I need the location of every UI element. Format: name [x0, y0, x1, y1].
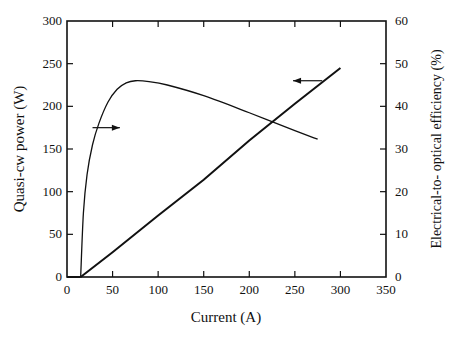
- x-tick-label: 50: [106, 282, 119, 297]
- y2-tick-label: 50: [395, 56, 408, 71]
- power-line: [81, 68, 341, 277]
- y-tick-label: 200: [43, 98, 63, 113]
- y2-tick-label: 20: [395, 184, 408, 199]
- annotations: [93, 78, 323, 131]
- axis-ticks: 0501001502002503003500501001502002503000…: [43, 13, 409, 297]
- x-tick-label: 350: [376, 282, 396, 297]
- efficiency-curve: [81, 81, 318, 277]
- x-tick-label: 300: [331, 282, 351, 297]
- y-tick-label: 250: [43, 56, 63, 71]
- y-axis-title: Quasi-cw power (W): [11, 86, 28, 213]
- y2-tick-label: 10: [395, 226, 408, 241]
- y2-tick-label: 0: [395, 269, 402, 284]
- x-tick-label: 200: [240, 282, 260, 297]
- x-tick-label: 100: [148, 282, 168, 297]
- plot-border: [67, 21, 386, 277]
- y-tick-label: 300: [43, 13, 63, 28]
- x-tick-label: 150: [194, 282, 214, 297]
- y-tick-label: 0: [56, 269, 63, 284]
- plot-frame: [67, 21, 386, 277]
- y2-tick-label: 30: [395, 141, 408, 156]
- y2-tick-label: 60: [395, 13, 408, 28]
- data-series: [67, 68, 340, 277]
- x-tick-label: 0: [64, 282, 71, 297]
- y-tick-label: 100: [43, 184, 63, 199]
- chart: 0501001502002503003500501001502002503000…: [0, 0, 454, 337]
- y-tick-label: 50: [49, 226, 62, 241]
- x-axis-title: Current (A): [191, 309, 261, 326]
- y2-tick-label: 40: [395, 98, 408, 113]
- x-tick-label: 250: [285, 282, 305, 297]
- y2-axis-title: Electrical-to- optical efficiency (%): [429, 49, 445, 248]
- y-tick-label: 150: [43, 141, 63, 156]
